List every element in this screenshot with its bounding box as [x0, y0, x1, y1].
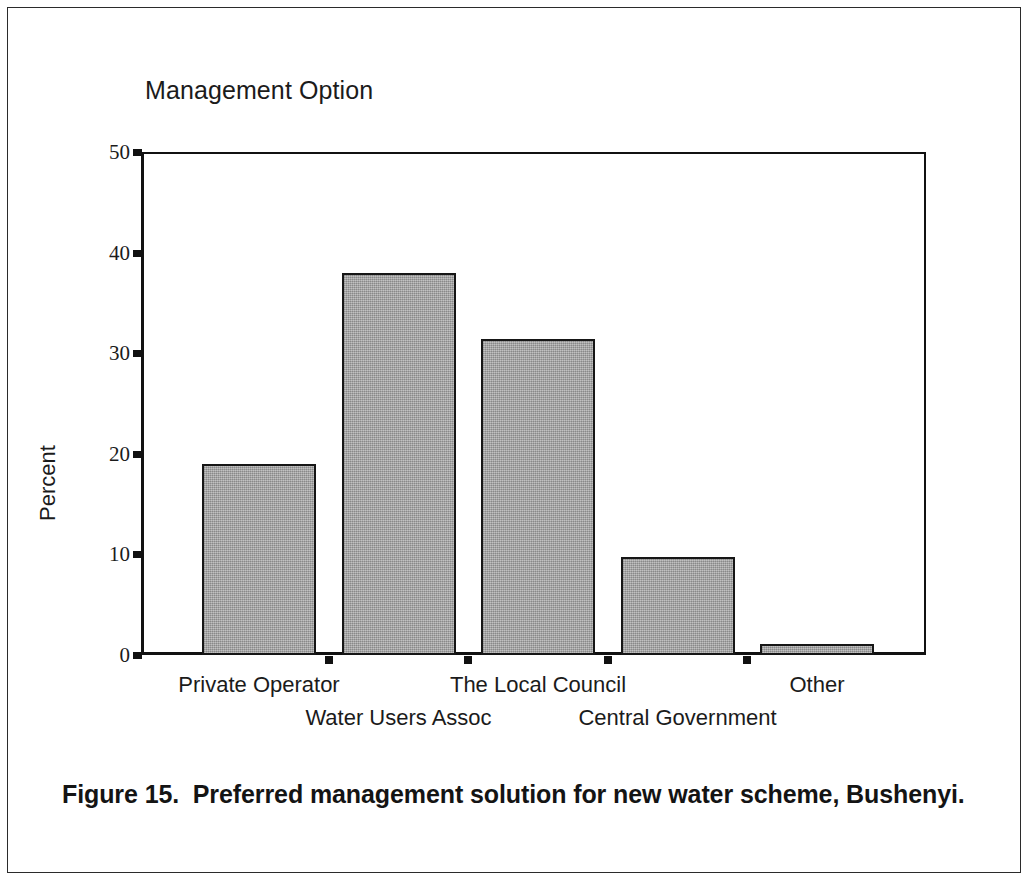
bar	[621, 557, 735, 655]
y-axis-title: Percent	[35, 413, 61, 553]
y-axis-tick-label: 30	[109, 343, 130, 364]
y-axis-tick-labels: 01020304050	[78, 0, 130, 887]
x-axis-tick-mark	[464, 656, 472, 664]
x-axis-category-label: Private Operator	[178, 672, 339, 698]
y-axis-tick-label: 40	[109, 243, 130, 264]
x-axis-tick-mark	[325, 656, 333, 664]
bar	[342, 273, 456, 655]
figure-page: Management Option Percent 01020304050 Pr…	[0, 0, 1033, 887]
figure-caption: Figure 15. Preferred management solution…	[62, 780, 965, 809]
x-axis-category-label: Water Users Assoc	[305, 705, 491, 731]
bar-series	[141, 152, 926, 655]
y-axis-tick-label: 20	[109, 444, 130, 465]
y-axis-tick-label: 10	[109, 544, 130, 565]
x-axis-category-label: Central Government	[578, 705, 776, 731]
y-axis-tick-label: 50	[109, 142, 130, 163]
x-axis-category-label: The Local Council	[450, 672, 626, 698]
bar	[481, 339, 595, 655]
bar	[760, 644, 874, 655]
y-axis-tick-label: 0	[120, 645, 131, 666]
bar	[202, 464, 316, 655]
chart-title: Management Option	[145, 76, 373, 105]
x-axis-category-label: Other	[789, 672, 844, 698]
x-axis-tick-mark	[604, 656, 612, 664]
x-axis-tick-mark	[743, 656, 751, 664]
